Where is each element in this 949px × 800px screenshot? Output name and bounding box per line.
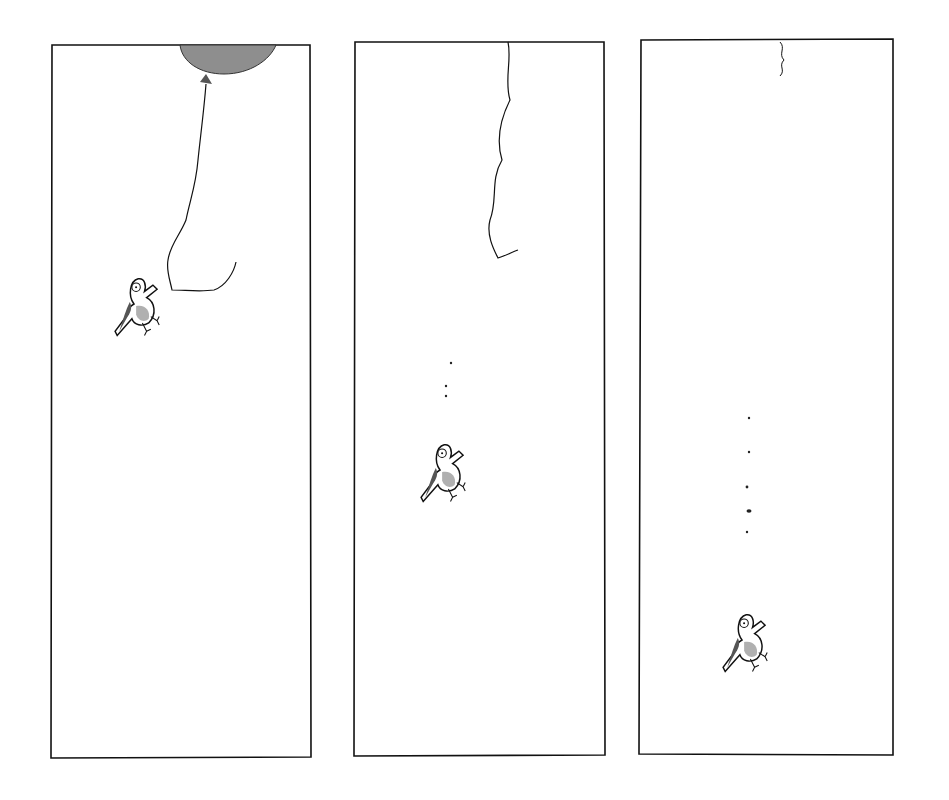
balloon-string — [780, 42, 784, 76]
balloon-knot-icon — [200, 74, 212, 84]
balloon-icon — [180, 45, 276, 74]
dropping-dots — [746, 417, 752, 533]
panel-border — [51, 45, 311, 758]
panel-border — [354, 42, 605, 756]
dropping-dots — [445, 362, 452, 397]
panel-3 — [639, 39, 893, 755]
balloon-string — [167, 84, 236, 291]
comic-strip — [0, 0, 949, 800]
balloon-string — [489, 42, 518, 258]
panel-border — [639, 39, 893, 755]
panel-2 — [354, 42, 605, 756]
panel-1 — [51, 45, 311, 758]
